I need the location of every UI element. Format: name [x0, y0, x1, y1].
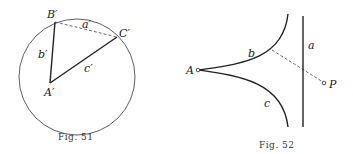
label-b: b — [248, 47, 255, 60]
label-c: c — [264, 97, 270, 110]
label-C: C′ — [119, 27, 130, 40]
circle — [19, 19, 135, 135]
label-c: c′ — [84, 62, 93, 75]
side-c — [50, 37, 117, 83]
curve-b — [199, 14, 288, 70]
label-B: B′ — [46, 8, 58, 21]
label-A: A — [185, 64, 194, 77]
caption-fig51: Fig. 51 — [58, 132, 94, 142]
label-b: b′ — [38, 48, 48, 61]
side-b — [50, 22, 55, 83]
label-P: P — [328, 78, 337, 91]
figure-52: A P a b c Fig. 52 — [185, 14, 337, 150]
figures-canvas: B′ a′ C′ b′ c′ A′ Fig. 51 A P a b c Fig.… — [0, 0, 353, 154]
figure-51: B′ a′ C′ b′ c′ A′ Fig. 51 — [19, 8, 135, 142]
dashed-perpendicular — [272, 50, 323, 82]
label-A: A′ — [43, 86, 55, 99]
curve-c — [199, 70, 288, 127]
caption-fig52: Fig. 52 — [259, 140, 295, 150]
label-a: a — [308, 39, 315, 52]
point-A — [196, 68, 200, 72]
label-a: a′ — [82, 18, 92, 31]
point-P — [322, 81, 326, 85]
